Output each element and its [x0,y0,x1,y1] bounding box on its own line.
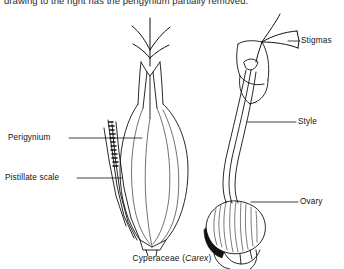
label-perigynium: Perigynium [8,133,50,143]
caption-family: Cyperaceae ( [132,253,185,263]
label-pistillate-scale: Pistillate scale [5,173,59,183]
label-ovary: Ovary [300,197,323,207]
caption-genus: Carex [185,253,208,263]
figure-caption: Cyperaceae (Carex) [0,253,344,263]
label-stigmas: Stigmas [301,36,332,46]
botanical-illustration [0,0,344,269]
left-drawing-whole-perigynium [104,18,188,256]
stigmas-right [256,14,299,62]
leader-lines [69,41,300,202]
ovary-hatching [214,201,257,252]
figure-page: drawing to the right has the perigynium … [0,0,344,269]
perigynium-body-left [120,104,188,256]
perigynium-nerves-left [131,108,178,246]
stigmas-left [132,18,170,66]
style-right [223,70,256,203]
label-style: Style [298,117,317,127]
right-drawing-cutaway [204,14,299,269]
caption-close-paren: ) [209,253,212,263]
perigynium-beak-left [138,62,163,118]
